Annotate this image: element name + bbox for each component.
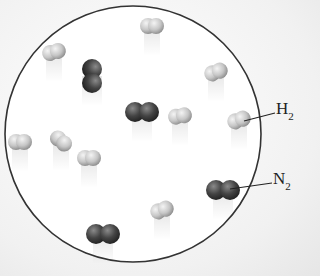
n2-molecule: [82, 59, 102, 106]
atom: [100, 224, 120, 244]
n2-label-subscript: 2: [285, 180, 291, 192]
n2-label: N2: [273, 169, 291, 190]
n2-label-element: N: [273, 169, 285, 188]
gas-mixture-diagram: H2 N2: [0, 0, 308, 276]
diagram-canvas: [0, 0, 308, 276]
atom: [220, 180, 240, 200]
h2-label-element: H: [276, 99, 288, 118]
atom: [148, 18, 164, 34]
atom: [16, 134, 32, 150]
h2-label-subscript: 2: [288, 110, 294, 122]
atom: [82, 73, 102, 93]
atom: [85, 150, 101, 166]
atom: [139, 102, 159, 122]
h2-label: H2: [276, 99, 294, 120]
